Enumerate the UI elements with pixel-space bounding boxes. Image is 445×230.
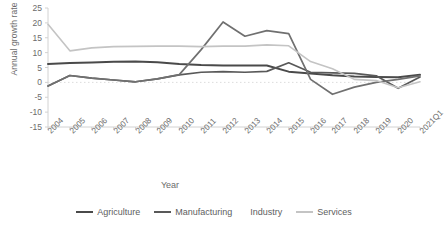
x-axis-tick-labels: 2004200520062007200820092010201120122013… <box>48 129 420 175</box>
legend-label: Agriculture <box>97 207 140 217</box>
x-tick-2021Q1: 2021Q1 <box>418 108 445 135</box>
series-line-services <box>48 24 420 87</box>
y-tick-neg10: -10 <box>22 108 42 117</box>
legend-label: Services <box>317 207 352 217</box>
y-tick-0: 0 <box>22 78 42 87</box>
series-group <box>48 22 420 94</box>
legend-line-icon <box>154 211 171 213</box>
y-axis-tick-labels: 2520151050-5-10-15 <box>16 0 42 135</box>
plot-area <box>48 8 420 127</box>
x-axis-title: Year <box>0 180 340 190</box>
y-tick-neg5: -5 <box>22 93 42 102</box>
y-tick-20: 20 <box>22 19 42 28</box>
legend-label: Industry <box>250 207 282 217</box>
series-line-industry <box>48 22 420 94</box>
y-tick-15: 15 <box>22 34 42 43</box>
legend-item-manufacturing[interactable]: Manufacturing <box>154 207 232 217</box>
y-tick-5: 5 <box>22 64 42 73</box>
chart-legend: AgricultureManufacturingIndustryServices <box>0 203 428 221</box>
series-canvas <box>48 8 420 127</box>
legend-item-services[interactable]: Services <box>296 207 352 217</box>
y-tick-10: 10 <box>22 49 42 58</box>
legend-label: Manufacturing <box>175 207 232 217</box>
legend-line-icon <box>76 211 93 213</box>
y-tick-25: 25 <box>22 4 42 13</box>
legend-item-industry[interactable]: Industry <box>246 207 282 217</box>
chart-title-cropped <box>60 0 360 1</box>
y-tick-neg15: -15 <box>22 123 42 132</box>
legend-line-icon <box>296 211 313 213</box>
legend-item-agriculture[interactable]: Agriculture <box>76 207 140 217</box>
